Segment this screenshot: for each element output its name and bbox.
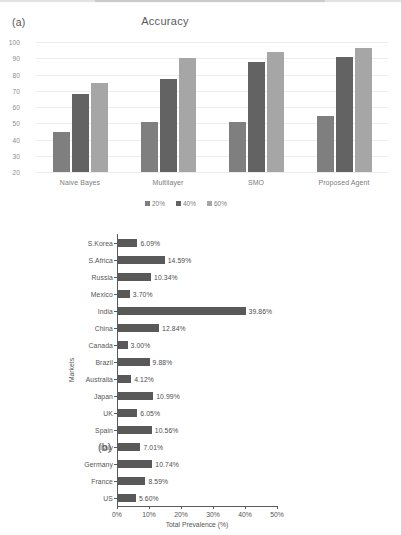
chart-b-data-label: 4.12% — [134, 375, 154, 382]
chart-b-data-label: 39.86% — [249, 307, 273, 314]
chart-a-bar — [141, 122, 158, 172]
chart-b-data-label: 10.34% — [154, 273, 178, 280]
chart-b-bar — [118, 273, 151, 281]
chart-a-bar — [91, 83, 108, 172]
chart-b-y-tick — [114, 311, 117, 312]
chart-a-y-tick-label: 40 — [0, 136, 20, 143]
chart-a-bar — [336, 57, 353, 172]
chart-b-y-tick — [114, 447, 117, 448]
chart-b-bar — [118, 341, 128, 349]
chart-a-category-label: Naive Bayes — [36, 179, 124, 186]
chart-b-data-label: 5.60% — [139, 494, 159, 501]
chart-b-bar — [118, 477, 145, 485]
chart-b-y-tick — [114, 498, 117, 499]
chart-b-category-label: Brazil — [95, 358, 113, 365]
chart-b-row: Germany10.74% — [117, 455, 277, 472]
chart-a-y-tick-label: 60 — [0, 104, 20, 111]
chart-b-row: China12.84% — [117, 319, 277, 336]
chart-b-bar — [118, 494, 136, 502]
chart-b-bar — [118, 324, 159, 332]
chart-b-y-tick — [114, 362, 117, 363]
chart-b-category-label: US — [103, 494, 113, 501]
chart-a-legend-label: 60% — [214, 200, 227, 207]
chart-b-y-tick — [114, 260, 117, 261]
chart-a-y-tick-label: 80 — [0, 71, 20, 78]
chart-b-data-label: 7.01% — [143, 443, 163, 450]
chart-b-data-label: 6.05% — [140, 409, 160, 416]
chart-b-bar — [118, 392, 153, 400]
chart-a-category-label: SMO — [212, 179, 300, 186]
chart-b-row: Japan10.99% — [117, 387, 277, 404]
chart-b-bar — [118, 239, 137, 247]
chart-b-row: France8.59% — [117, 472, 277, 489]
chart-b-category-label: Canada — [89, 341, 113, 348]
chart-a-bar — [160, 79, 177, 172]
chart-b-bar — [118, 443, 140, 451]
chart-b-data-label: 14.59% — [168, 256, 192, 263]
chart-b-row: India39.86% — [117, 302, 277, 319]
chart-b-category-label: Italy — [100, 443, 113, 450]
chart-b-x-tick — [181, 506, 182, 509]
chart-b-category-label: Australia — [86, 375, 113, 382]
chart-b-row: Brazil9.88% — [117, 353, 277, 370]
chart-a-y-tick-label: 100 — [0, 39, 20, 46]
chart-a-bar-group: Naive Bayes — [36, 42, 124, 172]
chart-b-x-tick-label: 30% — [206, 511, 220, 518]
chart-b-category-label: France — [91, 477, 113, 484]
chart-b-category-label: S.Africa — [88, 256, 113, 263]
chart-b-data-label: 3.00% — [131, 341, 151, 348]
chart-a-legend-item: 40% — [176, 200, 196, 207]
chart-b-row: S.Korea6.09% — [117, 234, 277, 251]
chart-b-row: S.Africa14.59% — [117, 251, 277, 268]
chart-a-category-label: Multilayer — [124, 179, 212, 186]
chart-b-data-label: 10.74% — [155, 460, 179, 467]
chart-a-legend-item: 20% — [145, 200, 165, 207]
chart-b-data-label: 8.59% — [148, 477, 168, 484]
chart-b-x-tick-label: 40% — [238, 511, 252, 518]
chart-b-row: US5.60% — [117, 489, 277, 506]
chart-b-row: Mexico3.70% — [117, 285, 277, 302]
chart-b-y-tick — [114, 481, 117, 482]
chart-b-category-label: Germany — [84, 460, 113, 467]
chart-b-x-tick — [149, 506, 150, 509]
chart-a-bar — [267, 52, 284, 172]
chart-a-title: Accuracy — [0, 15, 330, 27]
chart-b-y-tick — [114, 277, 117, 278]
chart-b-data-label: 10.56% — [155, 426, 179, 433]
chart-b-category-label: UK — [103, 409, 113, 416]
chart-b-y-tick — [114, 328, 117, 329]
chart-b-bar — [118, 290, 130, 298]
chart-a-legend: 20%40%60% — [0, 200, 372, 207]
chart-b-category-label: Russia — [92, 273, 113, 280]
chart-a-category-label: Proposed Agent — [300, 179, 388, 186]
chart-b-y-tick — [114, 430, 117, 431]
chart-a-bar — [229, 122, 246, 172]
chart-a-bar — [53, 132, 70, 172]
chart-b-y-tick — [114, 396, 117, 397]
chart-a-y-tick-label: 20 — [0, 169, 20, 176]
chart-a-bar-group: SMO — [212, 42, 300, 172]
chart-b-y-tick — [114, 379, 117, 380]
chart-b-row: Australia4.12% — [117, 370, 277, 387]
chart-b-x-tick-label: 50% — [270, 511, 284, 518]
chart-b-y-tick — [114, 345, 117, 346]
chart-b-x-tick — [277, 506, 278, 509]
chart-a-bar-group: Proposed Agent — [300, 42, 388, 172]
chart-b-row: UK6.05% — [117, 404, 277, 421]
chart-b-x-axis-title: Total Prevalence (%) — [117, 521, 277, 528]
chart-b-row: Canada3.00% — [117, 336, 277, 353]
legend-swatch-icon — [176, 201, 181, 206]
gridline — [36, 172, 388, 173]
chart-b-category-label: Spain — [95, 426, 113, 433]
chart-a-bar — [72, 94, 89, 172]
chart-b-bar — [118, 426, 152, 434]
chart-b-data-label: 9.88% — [153, 358, 173, 365]
chart-b-x-tick — [117, 506, 118, 509]
legend-swatch-icon — [145, 201, 150, 206]
chart-b-category-label: China — [95, 324, 113, 331]
chart-b-category-label: India — [98, 307, 113, 314]
chart-b-x-axis-line — [117, 506, 277, 507]
chart-b-row: Spain10.56% — [117, 421, 277, 438]
chart-a-bar — [355, 48, 372, 172]
chart-a-bar — [179, 58, 196, 172]
